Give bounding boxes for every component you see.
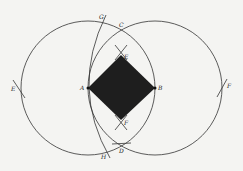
point-a xyxy=(87,87,90,90)
label-d: D xyxy=(118,147,124,154)
label-f-bottom: F xyxy=(123,119,129,126)
tick-d xyxy=(112,143,131,144)
label-e-top: E xyxy=(123,53,129,60)
label-f-right: F xyxy=(226,82,232,89)
label-b: B xyxy=(157,84,163,91)
label-g: G xyxy=(99,13,104,20)
label-a: A xyxy=(79,84,85,91)
label-e-left: E xyxy=(10,85,16,92)
geometry-construction-diagram: A B C D E F E F G H xyxy=(0,0,243,171)
label-h: H xyxy=(100,153,107,160)
label-c: C xyxy=(119,21,124,28)
filled-square-aebf xyxy=(88,55,155,120)
point-b xyxy=(154,87,157,90)
